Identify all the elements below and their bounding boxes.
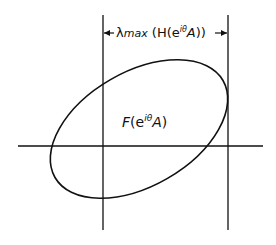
numerical-range-label: F(eiθA) [122, 113, 167, 130]
arrowhead-left-icon [104, 30, 110, 36]
lambda-max-label: λmax (H(eiθA)) [116, 25, 206, 40]
numerical-range-diagram: λmax (H(eiθA)) F(eiθA) [0, 0, 276, 245]
arrowhead-right-icon [221, 30, 227, 36]
